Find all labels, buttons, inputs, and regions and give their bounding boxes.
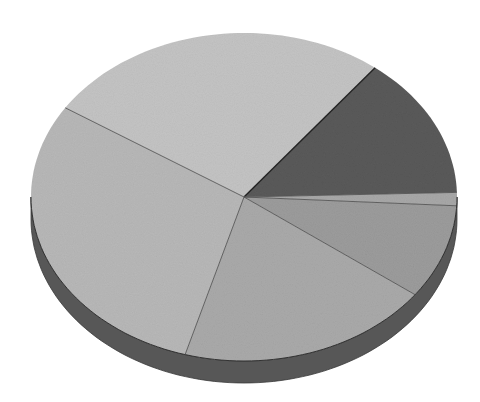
pie-chart [0,0,480,402]
